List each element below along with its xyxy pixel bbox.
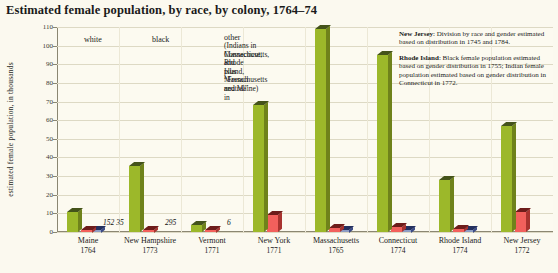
x-axis-year: 1764 — [57, 246, 119, 256]
x-axis-label: New Jersey1772 — [491, 236, 553, 256]
bar-white[interactable] — [253, 105, 264, 232]
y-tick-label: 10 — [46, 209, 53, 217]
bar-black[interactable] — [205, 230, 216, 233]
x-axis-year: 1773 — [119, 246, 181, 256]
bar-white[interactable] — [377, 55, 388, 232]
x-axis-colony-name: Maine — [78, 236, 98, 245]
note-new-jersey-label: New Jersey — [399, 30, 433, 38]
bar-white[interactable] — [501, 126, 512, 232]
x-axis-label: Rhode Island1774 — [429, 236, 491, 256]
bar-white[interactable] — [191, 225, 202, 232]
bar-group — [57, 27, 119, 232]
bar-white[interactable] — [439, 180, 450, 232]
x-axis-label: Massachusetts1765 — [305, 236, 367, 256]
y-tick-label: 70 — [46, 98, 53, 106]
note-new-jersey: New Jersey: Division by race and gender … — [399, 30, 551, 47]
x-axis-colony-name: Rhode Island — [439, 236, 481, 245]
x-axis-label: Maine1764 — [57, 236, 119, 256]
bar-black[interactable] — [453, 229, 464, 232]
legend-label-black: black — [152, 35, 169, 44]
x-axis-year: 1774 — [429, 246, 491, 256]
x-axis-year: 1765 — [305, 246, 367, 256]
bar-black[interactable] — [515, 212, 526, 232]
y-tick-mark — [53, 232, 57, 233]
legend-swatch-black-icon — [130, 32, 143, 45]
bar-black[interactable] — [329, 228, 340, 232]
bar-black[interactable] — [143, 230, 154, 233]
x-axis-label: Connecticut1774 — [367, 236, 429, 256]
x-axis-label: New York1771 — [243, 236, 305, 256]
page-title: Estimated female population, by race, by… — [6, 3, 317, 18]
x-axis-year: 1774 — [367, 246, 429, 256]
y-tick-label: 40 — [46, 153, 53, 161]
x-axis-colony-name: Massachusetts — [313, 236, 359, 245]
y-tick-label: 80 — [46, 79, 53, 87]
bar-group — [119, 27, 181, 232]
x-axis-year: 1771 — [181, 246, 243, 256]
x-axis-year: 1771 — [243, 246, 305, 256]
legend-label-white: white — [84, 35, 102, 44]
y-tick-label: 60 — [46, 116, 53, 124]
bar-group — [305, 27, 367, 232]
x-axis-colony-name: Vermont — [198, 236, 226, 245]
legend-swatch-other-icon — [198, 32, 211, 45]
x-axis-label: New Hampshire1773 — [119, 236, 181, 256]
y-tick-label: 90 — [46, 60, 53, 68]
x-axis-colony-name: New Hampshire — [124, 236, 176, 245]
bar-black[interactable] — [81, 230, 92, 233]
bar-value-label: 295 — [165, 218, 176, 227]
bar-value-label: 6 — [227, 218, 231, 227]
x-axis-colony-name: New Jersey — [503, 236, 540, 245]
x-axis-year: 1772 — [491, 246, 553, 256]
x-axis-colony-name: Connecticut — [379, 236, 418, 245]
y-tick-label: 30 — [46, 172, 53, 180]
legend-swatch-white-icon — [62, 32, 75, 45]
y-tick-label: 50 — [46, 135, 53, 143]
bar-white[interactable] — [315, 29, 326, 232]
bar-black[interactable] — [267, 215, 278, 232]
chart-notes: New Jersey: Division by race and gender … — [399, 30, 551, 94]
note-rhode-island: Rhode Island: Black female population es… — [399, 54, 551, 88]
bar-white[interactable] — [67, 212, 78, 232]
chart-page: Estimated female population, by race, by… — [0, 0, 558, 273]
x-axis-label: Vermont1771 — [181, 236, 243, 256]
gridline — [57, 232, 553, 233]
y-tick-label: 110 — [43, 23, 53, 31]
y-tick-label: 100 — [43, 42, 54, 50]
y-tick-label: 20 — [46, 191, 53, 199]
y-tick-label: 0 — [50, 228, 54, 236]
note-rhode-island-label: Rhode Island — [399, 54, 439, 62]
bar-black[interactable] — [391, 227, 402, 232]
x-axis-colony-name: New York — [258, 236, 290, 245]
legend-other-detail-5: Massachusetts and Maine) — [224, 76, 267, 93]
bar-white[interactable] — [129, 166, 140, 232]
y-axis-label: estimated female population, in thousand… — [4, 27, 16, 232]
